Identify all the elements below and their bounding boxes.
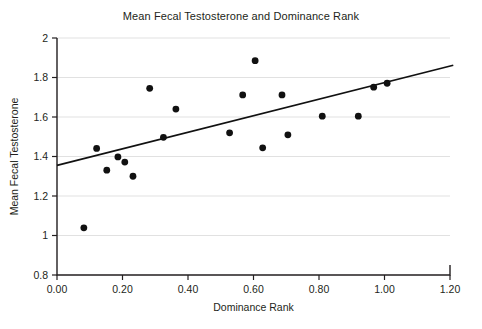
data-points: [80, 57, 390, 231]
svg-text:0.20: 0.20: [112, 283, 133, 295]
x-tick-labels: 0.000.200.400.600.801.001.20: [47, 283, 461, 295]
gridlines: [57, 38, 450, 236]
trend-line: [57, 65, 453, 165]
svg-text:1.00: 1.00: [374, 283, 395, 295]
svg-text:0.80: 0.80: [309, 283, 330, 295]
scatter-plot: 0.811.21.41.61.82 0.000.200.400.600.801.…: [0, 0, 482, 329]
y-tick-labels: 0.811.21.41.61.82: [33, 32, 48, 281]
svg-text:0.00: 0.00: [47, 283, 68, 295]
svg-text:2: 2: [42, 32, 48, 44]
svg-text:0.60: 0.60: [243, 283, 264, 295]
y-tick-marks: [52, 38, 57, 275]
svg-text:1.20: 1.20: [440, 283, 461, 295]
svg-text:0.8: 0.8: [33, 269, 48, 281]
x-axis-label: Dominance Rank: [213, 301, 294, 313]
chart-figure: Mean Fecal Testosterone and Dominance Ra…: [0, 0, 482, 329]
svg-text:1.8: 1.8: [33, 71, 48, 83]
svg-text:1.4: 1.4: [33, 150, 48, 162]
svg-text:1.2: 1.2: [33, 190, 48, 202]
svg-text:1: 1: [42, 229, 48, 241]
y-axis-label: Mean Fecal Testosterone: [8, 97, 20, 215]
svg-text:0.40: 0.40: [178, 283, 199, 295]
x-tick-marks: [57, 275, 450, 280]
svg-text:1.6: 1.6: [33, 111, 48, 123]
